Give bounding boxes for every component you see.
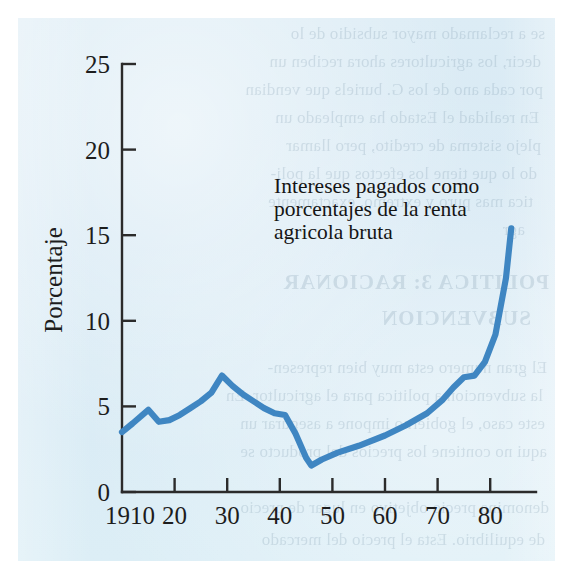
x-tick-label: 50	[320, 502, 345, 529]
annotation-line-1: Intereses pagados como	[274, 174, 479, 198]
annotation-line-2: porcentajes de la renta	[274, 197, 467, 221]
y-tick-label: 20	[85, 137, 110, 164]
line-chart: 0510152025 191020304050607080 Porcentaje…	[0, 0, 569, 571]
x-tick-group	[175, 478, 491, 492]
x-tick-label: 80	[478, 502, 503, 529]
annotation-line-3: agricola bruta	[274, 220, 393, 244]
x-tick-label: 40	[267, 502, 292, 529]
y-axis-title: Porcentaje	[40, 227, 67, 333]
x-tick-label: 20	[162, 502, 187, 529]
figure-container: se a reclamado mayor subsidio de lo deci…	[0, 0, 569, 571]
y-tick-label-group: 0510152025	[85, 51, 110, 506]
y-tick-label: 25	[85, 51, 110, 78]
y-tick-label: 10	[85, 308, 110, 335]
data-series-line	[122, 228, 511, 465]
y-axis: 0510152025	[85, 51, 136, 506]
x-tick-label-group: 191020304050607080	[105, 502, 503, 529]
y-tick-label: 15	[85, 222, 110, 249]
chart-annotation: Intereses pagados como porcentajes de la…	[274, 174, 479, 244]
y-tick-label: 5	[98, 393, 111, 420]
x-tick-label: 30	[215, 502, 240, 529]
x-axis: 191020304050607080	[105, 478, 536, 529]
x-tick-label: 1910	[105, 502, 155, 529]
x-tick-label: 60	[373, 502, 398, 529]
x-tick-label: 70	[425, 502, 450, 529]
